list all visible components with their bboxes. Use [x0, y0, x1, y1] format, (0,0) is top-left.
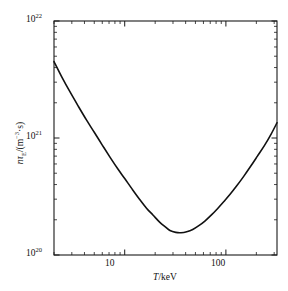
plot-frame	[54, 21, 277, 255]
axes-frame	[54, 21, 277, 255]
x-axis-title-unit: /keV	[158, 272, 176, 282]
x-axis-minor-ticks	[54, 21, 274, 255]
y-tick-label-1e22: 1022	[26, 14, 42, 24]
y-axis-title-unit-open: /(m	[15, 139, 25, 152]
x-tick-label-100: 100	[211, 258, 225, 268]
y-axis-title-n: n	[15, 159, 25, 164]
y-axis-title-tau: τ	[15, 156, 25, 159]
y-axis-title-exponent: −3	[13, 132, 20, 139]
y-tick-label-1e21: 1021	[26, 131, 42, 141]
y-axis-major-ticks	[54, 21, 277, 255]
x-axis-major-ticks	[125, 21, 226, 255]
y-axis-minor-ticks	[54, 26, 277, 219]
x-tick-label-10: 10	[105, 258, 115, 268]
figure-container: nτE/(m−3·s) 1022 1021 1020 10 100 T/keV	[0, 0, 288, 291]
y-tick-label-1e20: 1020	[26, 248, 42, 258]
data-series-group	[54, 62, 277, 233]
y-axis-title-unit-tail: ·s)	[15, 122, 25, 132]
lawson-criterion-chart	[0, 0, 288, 291]
y-axis-title: nτE/(m−3·s)	[15, 78, 25, 208]
x-axis-title: T/keV	[125, 272, 205, 282]
y-axis-title-sub: E	[20, 152, 27, 156]
series-line-lawson	[54, 62, 277, 233]
